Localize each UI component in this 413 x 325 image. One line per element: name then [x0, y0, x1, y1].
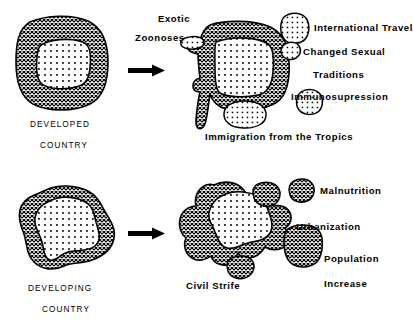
caption-developing-country-line2: COUNTRY — [42, 306, 90, 314]
caption-developed-country-line2: COUNTRY — [40, 142, 88, 150]
international-travel-blob — [281, 13, 309, 43]
caption-developing-country-line1: DEVELOPING — [28, 285, 92, 293]
developed-country-blob — [16, 16, 108, 110]
urbanization-blob — [253, 182, 280, 206]
label-exotic: Exotic — [158, 14, 190, 24]
label-international-travel: International Travel — [314, 23, 413, 33]
arrow-right-developed — [128, 65, 165, 77]
arrow-right-developing — [128, 228, 165, 240]
label-zoonoses: Zoonoses — [135, 33, 185, 43]
label-population: Population — [324, 254, 379, 264]
label-immigration-from-the-tropics: Immigration from the Tropics — [205, 132, 353, 142]
label-urbanization: Urbanization — [296, 222, 361, 232]
label-traditions: Traditions — [313, 70, 364, 80]
immigration-blob — [224, 101, 266, 128]
label-increase: Increase — [324, 279, 367, 289]
label-malnutrition: Malnutrition — [320, 186, 382, 196]
changed-sexual-blob — [281, 42, 300, 59]
civil-strife-blob — [227, 256, 254, 279]
label-changed-sexual: Changed Sexual — [303, 47, 385, 57]
malnutrition-blob — [289, 179, 314, 202]
caption-developed-country-line1: DEVELOPED — [30, 121, 90, 129]
developing-country-blob — [19, 186, 114, 269]
label-immunosupression: Immunosupression — [291, 92, 388, 102]
label-civil-strife: Civil Strife — [186, 281, 240, 291]
